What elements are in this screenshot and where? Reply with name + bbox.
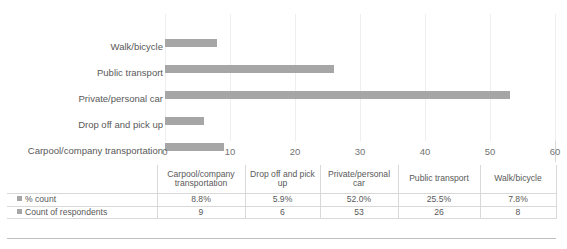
x-tick-30: 30 xyxy=(345,146,375,157)
category-label-walk-bicycle: Walk/bicycle xyxy=(0,42,163,52)
gridline-60 xyxy=(555,14,556,141)
table-row: % count 8.8% 5.9% 52.0% 25.5% 7.8% xyxy=(7,194,556,207)
bars-container xyxy=(165,14,556,162)
bar-walk-bicycle xyxy=(165,39,217,47)
table-cell: 5.9% xyxy=(245,194,320,207)
category-label-private-personal-car: Private/personal car xyxy=(0,94,163,104)
x-tick-60: 60 xyxy=(540,146,567,157)
legend-swatch-icon xyxy=(17,209,22,214)
data-table: Carpool/company transportation Drop off … xyxy=(7,165,557,219)
table-row: Count of respondents 9 6 53 26 8 xyxy=(7,206,556,219)
gridline-10 xyxy=(230,14,231,141)
table-cell: 53 xyxy=(320,206,398,219)
legend-label-count-of-respondents: Count of respondents xyxy=(25,207,107,217)
x-tick-40: 40 xyxy=(410,146,440,157)
table-corner-cell xyxy=(7,165,157,194)
bar-chart-figure: Walk/bicycle Public transport Private/pe… xyxy=(0,0,567,249)
x-tick-0: 0 xyxy=(150,146,180,157)
table-header-row: Carpool/company transportation Drop off … xyxy=(7,165,556,194)
legend-item-percent-count: % count xyxy=(7,194,157,207)
category-label-drop-off-and-pick-up: Drop off and pick up xyxy=(0,120,163,130)
bar-private-personal-car xyxy=(165,91,510,99)
table-col-header-walk-bicycle: Walk/bicycle xyxy=(480,165,556,194)
legend-swatch-icon xyxy=(17,196,22,201)
gridline-30 xyxy=(360,14,361,141)
table-cell: 7.8% xyxy=(480,194,556,207)
x-axis: 0 10 20 30 40 50 60 xyxy=(165,143,556,161)
legend-label-percent-count: % count xyxy=(25,194,56,204)
bar-drop-off-and-pick-up xyxy=(165,117,204,125)
table-col-header-private-car: Private/personal car xyxy=(320,165,398,194)
gridline-50 xyxy=(490,14,491,141)
table-bottom-rule xyxy=(7,238,556,239)
table-col-header-drop-off: Drop off and pick up xyxy=(245,165,320,194)
gridline-20 xyxy=(295,14,296,141)
plot-area: Walk/bicycle Public transport Private/pe… xyxy=(7,14,556,162)
table-cell: 9 xyxy=(157,206,245,219)
chart-title xyxy=(8,0,548,3)
table-cell: 25.5% xyxy=(398,194,480,207)
category-label-public-transport: Public transport xyxy=(0,68,163,78)
table-col-header-public-transport: Public transport xyxy=(398,165,480,194)
x-tick-50: 50 xyxy=(475,146,505,157)
legend-item-count-of-respondents: Count of respondents xyxy=(7,206,157,219)
table-cell: 26 xyxy=(398,206,480,219)
gridline-40 xyxy=(425,14,426,141)
x-tick-10: 10 xyxy=(215,146,245,157)
table-cell: 8 xyxy=(480,206,556,219)
x-tick-20: 20 xyxy=(280,146,310,157)
table-cell: 52.0% xyxy=(320,194,398,207)
bar-public-transport xyxy=(165,65,334,73)
category-label-carpool-company-transportation: Carpool/company transportation xyxy=(0,146,163,156)
table-cell: 8.8% xyxy=(157,194,245,207)
table-cell: 6 xyxy=(245,206,320,219)
table-col-header-carpool: Carpool/company transportation xyxy=(157,165,245,194)
